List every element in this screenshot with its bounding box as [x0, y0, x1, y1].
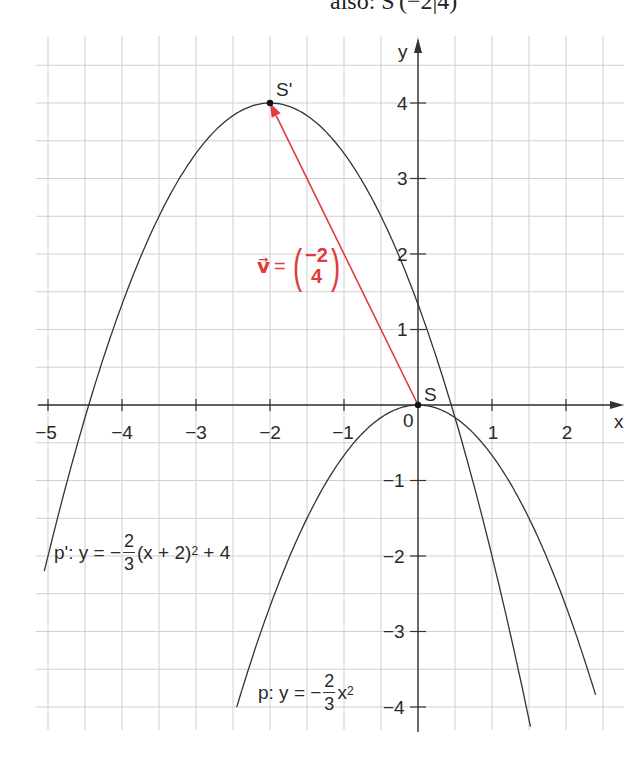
fraction-bar — [323, 692, 335, 693]
numerator: 2 — [124, 532, 134, 550]
origin-label: 0 — [403, 411, 414, 430]
point-s-prime-label: S' — [276, 80, 292, 99]
x-tick-label: 1 — [488, 423, 499, 442]
y-tick-label: 2 — [397, 245, 408, 264]
vector-x-component: −2 — [305, 245, 328, 266]
exponent: 2 — [347, 684, 354, 698]
x-tick-label: −2 — [259, 423, 281, 442]
p-prime-equation: p': y = − 2 3 (x + 2)2 + 4 — [54, 532, 230, 573]
y-tick-label: −1 — [383, 471, 405, 490]
point-s — [415, 402, 421, 408]
y-axis-arrow-icon — [414, 38, 422, 53]
coordinate-plot — [0, 0, 643, 764]
x-tick-label: −5 — [35, 423, 57, 442]
fraction: 2 3 — [323, 672, 335, 713]
vector-label: v⃗ = ( −2 4 ) — [257, 243, 343, 289]
y-axis-label: y — [398, 42, 408, 61]
y-tick-label: −3 — [383, 622, 405, 641]
x-tick-label: −1 — [332, 423, 354, 442]
vector-components: −2 4 — [305, 245, 328, 287]
p-prime-lhs: p': y = − — [54, 542, 121, 564]
numerator: 2 — [324, 672, 334, 690]
p-prime-constant: + 4 — [198, 542, 230, 564]
x-axis-label: x — [614, 412, 624, 431]
x-tick-label: −3 — [185, 423, 207, 442]
exponent: 2 — [191, 544, 198, 558]
p-rhs: x — [337, 682, 347, 704]
point-s-label: S — [424, 385, 437, 404]
x-tick-label: −4 — [111, 423, 133, 442]
left-paren: ( — [293, 243, 302, 289]
denominator: 3 — [324, 695, 334, 713]
parabola-p-prime — [44, 103, 530, 727]
y-tick-label: 1 — [397, 320, 408, 339]
point-s-prime — [267, 100, 273, 106]
y-tick-label: 3 — [397, 169, 408, 188]
x-axis-arrow-icon — [610, 401, 624, 409]
right-paren: ) — [331, 243, 340, 289]
x-tick-label: 2 — [562, 423, 573, 442]
vector-equals: = — [274, 255, 286, 278]
p-prime-rhs: (x + 2) — [137, 542, 191, 564]
p-lhs: p: y = − — [258, 682, 321, 704]
vector-name: v⃗ — [257, 254, 270, 278]
y-tick-label: 4 — [397, 94, 408, 113]
fraction-bar — [123, 552, 135, 553]
y-tick-label: −4 — [383, 698, 405, 717]
vector-y-component: 4 — [311, 266, 322, 287]
denominator: 3 — [124, 555, 134, 573]
y-tick-label: −2 — [383, 547, 405, 566]
fraction: 2 3 — [123, 532, 135, 573]
p-equation: p: y = − 2 3 x2 — [258, 672, 354, 713]
